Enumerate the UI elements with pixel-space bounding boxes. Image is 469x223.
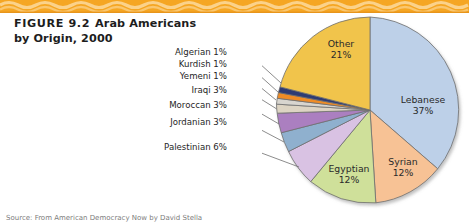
leader-line-iraqi — [262, 91, 277, 109]
slice-label-name: Other — [328, 38, 354, 49]
slice-label-syrian: Syrian 12% — [381, 156, 425, 178]
figure-name: Arab Americans — [95, 17, 196, 30]
callout-label: Algerian 1% — [175, 47, 227, 57]
callout-label: Jordanian 3% — [170, 117, 227, 127]
callout-kurdish: Kurdish 1% — [179, 59, 227, 69]
callout-moroccan: Moroccan 3% — [169, 100, 227, 110]
callout-palestinian: Palestinian 6% — [164, 142, 227, 152]
leader-line-algerian — [262, 53, 281, 83]
callout-label: Moroccan 3% — [169, 100, 227, 110]
slice-label-pct: 37% — [394, 105, 452, 116]
slice-label-lebanese: Lebanese 37% — [394, 94, 452, 116]
slice-label-pct: 21% — [316, 49, 366, 60]
slice-label-pct: 12% — [381, 167, 425, 178]
slice-label-egyptian: Egyptian 12% — [322, 163, 376, 185]
wave-pattern-icon — [0, 0, 469, 13]
slice-label-name: Syrian — [388, 156, 417, 167]
callout-jordanian: Jordanian 3% — [170, 117, 227, 127]
figure-subtitle: by Origin, 2000 — [14, 32, 113, 45]
callout-iraqi: Iraqi 3% — [191, 85, 227, 95]
slice-label-name: Egyptian — [329, 163, 370, 174]
callout-label: Yemeni 1% — [180, 71, 227, 81]
callout-label: Iraqi 3% — [191, 85, 227, 95]
figure-title: FIGURE 9.2Arab Americans by Origin, 2000 — [14, 17, 244, 46]
slice-label-pct: 12% — [322, 174, 376, 185]
callout-label: Kurdish 1% — [179, 59, 227, 69]
slice-label-name: Lebanese — [401, 94, 446, 105]
figure-number: FIGURE 9.2 — [14, 17, 90, 30]
slice-label-other: Other 21% — [316, 38, 366, 60]
decorative-top-band — [0, 0, 469, 13]
callout-algerian: Algerian 1% — [175, 47, 227, 57]
callout-label: Palestinian 6% — [164, 142, 227, 152]
source-note: Source: From American Democracy Now by D… — [6, 214, 202, 222]
callout-yemeni: Yemeni 1% — [180, 71, 227, 81]
